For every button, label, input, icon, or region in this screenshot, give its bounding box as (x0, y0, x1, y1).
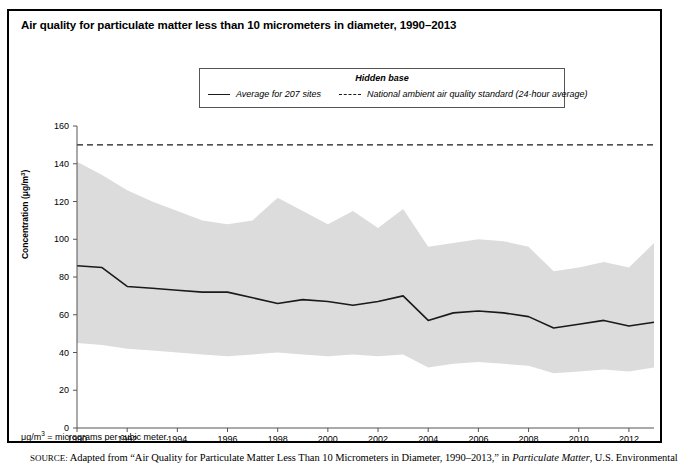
source-citation: SOURCE: Adapted from “Air Quality for Pa… (30, 452, 665, 463)
footnote-units: μg/m (21, 432, 41, 442)
shaded-range-band (77, 162, 654, 373)
source-label: SOURCE: (30, 453, 68, 463)
figure-container: Air quality for particulate matter less … (7, 9, 662, 443)
x-axis-tick-label: 2006 (468, 434, 488, 444)
y-axis-tick-label: 120 (54, 197, 69, 207)
x-axis-tick-label: 1998 (268, 434, 288, 444)
y-axis-tick-label: 140 (54, 159, 69, 169)
source-text-part-2: , U.S. Environmental (590, 452, 678, 463)
x-axis-tick-label: 1994 (167, 434, 187, 444)
y-axis-tick-label: 20 (59, 385, 69, 395)
y-axis-tick-label: 160 (54, 121, 69, 131)
source-publication-title: Particulate Matter (512, 452, 590, 463)
units-footnote: μg/m3 = micrograms per cubic meter. (21, 430, 169, 442)
y-axis-tick-label: 60 (59, 310, 69, 320)
y-axis-tick-label: 100 (54, 234, 69, 244)
x-axis-tick-label: 2008 (519, 434, 539, 444)
y-axis-tick-label: 80 (59, 272, 69, 282)
x-axis-tick-label: 1996 (218, 434, 238, 444)
chart-svg: 0204060801001201401601990199219941996199… (9, 11, 664, 445)
y-axis-title: Concentration (μg/m3) (20, 154, 31, 274)
x-axis-tick-label: 2012 (619, 434, 639, 444)
x-axis-tick-label: 2000 (318, 434, 338, 444)
plot-area: Concentration (μg/m3) 020406080100120140… (9, 11, 664, 445)
x-axis-tick-label: 2010 (569, 434, 589, 444)
source-text-part-1: Adapted from “Air Quality for Particulat… (68, 452, 512, 463)
x-axis-tick-label: 2002 (368, 434, 388, 444)
x-axis-tick-label: 2004 (418, 434, 438, 444)
y-axis-tick-label: 40 (59, 348, 69, 358)
footnote-text: = micrograms per cubic meter. (45, 432, 169, 442)
